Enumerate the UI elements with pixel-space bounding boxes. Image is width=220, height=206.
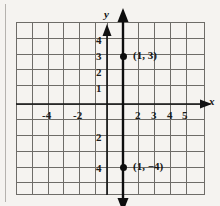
- point-marker-1-neg4: [120, 164, 127, 171]
- y-axis-label: y: [104, 9, 109, 20]
- point-label-1-3: (1, 3): [133, 50, 157, 61]
- coordinate-plane-figure: (1, 3) (1, −4) -4 -2 2 3 4 5 4 3 2 1 2 4…: [0, 0, 220, 206]
- y-tick-label-2: 2: [96, 67, 102, 78]
- x-tick-label-4: 4: [167, 110, 173, 121]
- x-tick-label-3: 3: [151, 110, 157, 121]
- y-tick-label-neg-2: 2: [96, 132, 102, 143]
- scan-edge-artifact: [5, 4, 6, 202]
- point-marker-1-3: [120, 53, 127, 60]
- y-tick-label-4: 4: [96, 35, 102, 46]
- y-tick-label-3: 3: [96, 51, 102, 62]
- x-tick-label-neg-2: -2: [73, 110, 82, 121]
- y-tick-label-neg-4: 4: [96, 163, 102, 174]
- x-tick-label-neg-4: -4: [42, 110, 51, 121]
- x-tick-label-2: 2: [135, 110, 141, 121]
- point-label-1-neg4: (1, −4): [133, 161, 163, 172]
- x-tick-label-5: 5: [182, 110, 188, 121]
- x-axis-label: x: [209, 96, 215, 107]
- plot-area: (1, 3) (1, −4) -4 -2 2 3 4 5 4 3 2 1 2 4: [16, 22, 205, 195]
- y-tick-label-1: 1: [96, 83, 102, 94]
